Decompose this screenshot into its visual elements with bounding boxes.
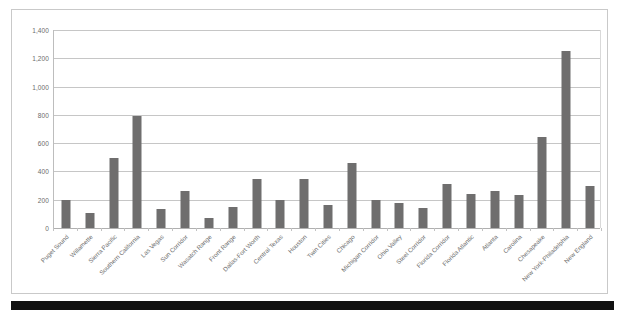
bar[interactable] [133, 116, 142, 228]
bar[interactable] [85, 213, 94, 228]
x-label-slot: Ohio Valley [387, 231, 411, 301]
bar-slot [149, 30, 173, 228]
x-label-slot: Willamette [77, 231, 101, 301]
x-label-slot: Twin Cities [315, 231, 339, 301]
y-axis-labels: 02004006008001,0001,2001,400 [21, 30, 49, 228]
bar-slot [197, 30, 221, 228]
x-label-slot: Dallas-Fort Worth [244, 231, 268, 301]
bar[interactable] [109, 158, 118, 228]
x-label-slot: Southern California [124, 231, 148, 301]
bar[interactable] [347, 163, 356, 228]
x-label-slot: Puget Sound [53, 231, 77, 301]
bar-slot [388, 30, 412, 228]
bar[interactable] [323, 205, 332, 228]
x-label-slot: Houston [291, 231, 315, 301]
bar-slot [364, 30, 388, 228]
bar-slot [411, 30, 435, 228]
bar-slot [268, 30, 292, 228]
bar-slot [102, 30, 126, 228]
bar[interactable] [181, 191, 190, 228]
x-label-slot: New York-Philadelphia [553, 231, 577, 301]
bar[interactable] [252, 179, 261, 228]
bar[interactable] [419, 208, 428, 228]
bar-slot [78, 30, 102, 228]
bar[interactable] [586, 186, 595, 228]
bar-slot [292, 30, 316, 228]
x-label-slot: Wasatch Range [196, 231, 220, 301]
bar-slot [125, 30, 149, 228]
bar-slot [173, 30, 197, 228]
bar-slot [221, 30, 245, 228]
bar[interactable] [228, 207, 237, 228]
x-axis-tick-label: Atlanta [480, 233, 499, 252]
bar[interactable] [61, 200, 70, 228]
bar[interactable] [562, 51, 571, 228]
x-label-slot: New England [577, 231, 601, 301]
x-label-slot: Central Texas [267, 231, 291, 301]
bar[interactable] [538, 137, 547, 228]
bar[interactable] [371, 200, 380, 228]
plot-area [53, 30, 601, 228]
bottom-black-band [11, 301, 614, 310]
bar-slot [531, 30, 555, 228]
bar-slot [459, 30, 483, 228]
bar-slot [435, 30, 459, 228]
x-label-slot: Atlanta [482, 231, 506, 301]
x-axis-labels: Puget SoundWillametteSierra PacificSouth… [53, 231, 601, 301]
y-tick-label: 1,200 [32, 55, 49, 62]
bar[interactable] [490, 191, 499, 228]
bar-slot [483, 30, 507, 228]
chart-figure-frame: 02004006008001,0001,2001,400 Puget Sound… [11, 9, 608, 294]
x-label-slot: Las Vegas [148, 231, 172, 301]
y-tick-label: 600 [38, 140, 49, 147]
bar[interactable] [443, 184, 452, 228]
x-label-slot: Florida Atlantic [458, 231, 482, 301]
y-tick-label: 800 [38, 111, 49, 118]
bar[interactable] [276, 200, 285, 228]
bar-slot [340, 30, 364, 228]
bar[interactable] [514, 195, 523, 228]
x-label-slot: Carolina [506, 231, 530, 301]
bar-slot [507, 30, 531, 228]
y-tick-label: 400 [38, 168, 49, 175]
bar[interactable] [395, 203, 404, 228]
bar[interactable] [300, 179, 309, 229]
y-tick-label: 1,000 [32, 83, 49, 90]
x-tick-mark [601, 228, 602, 231]
x-label-slot: Michigan Corridor [363, 231, 387, 301]
bar[interactable] [157, 209, 166, 228]
bar-slot [316, 30, 340, 228]
bar-slot [245, 30, 269, 228]
x-axis-tick-label: Puget Sound [39, 233, 70, 264]
bar-slot [578, 30, 602, 228]
bar[interactable] [466, 194, 475, 228]
bar-slot [554, 30, 578, 228]
y-tick-label: 0 [45, 225, 49, 232]
y-tick-label: 200 [38, 196, 49, 203]
bar[interactable] [204, 218, 213, 228]
bar-slot [54, 30, 78, 228]
bars-layer [54, 30, 600, 228]
y-tick-label: 1,400 [32, 27, 49, 34]
